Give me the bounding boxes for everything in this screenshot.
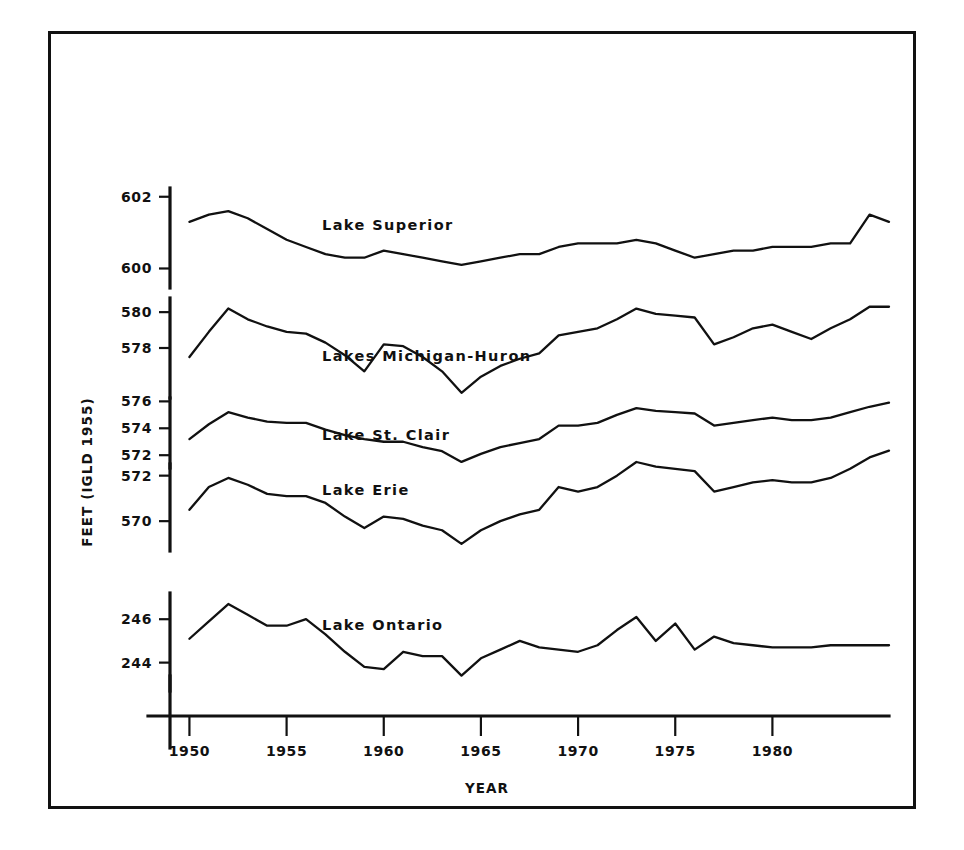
x-axis: 1950195519601965197019751980YEAR (148, 676, 889, 796)
great-lakes-water-level-chart: 600602Lake Superior578580Lakes Michigan-… (0, 0, 964, 850)
x-tick-label: 1965 (460, 743, 501, 759)
y-tick-label: 576 (121, 393, 152, 409)
y-tick-label: 602 (121, 189, 152, 205)
series-label: Lake Superior (322, 217, 454, 233)
y-tick-label: 572 (121, 447, 152, 463)
x-tick-label: 1960 (363, 743, 404, 759)
series-label: Lake Erie (322, 482, 410, 498)
panel-lake-ontario: 244246Lake Ontario (121, 593, 889, 691)
series-line-lake-superior (189, 211, 889, 265)
series-label: Lakes Michigan-Huron (322, 348, 531, 364)
y-tick-label: 580 (121, 304, 152, 320)
x-tick-label: 1980 (752, 743, 793, 759)
x-tick-label: 1955 (266, 743, 307, 759)
series-line-lake-erie (189, 451, 889, 544)
y-tick-label: 578 (121, 340, 152, 356)
panel-lakes-michigan-huron: 578580Lakes Michigan-Huron (121, 298, 889, 398)
panel-lake-st-clair: 572574576Lake St. Clair (121, 393, 889, 468)
x-axis-title: YEAR (464, 780, 509, 796)
series-line-lake-st-clair (189, 403, 889, 462)
series-line-lakes-michigan-huron (189, 307, 889, 393)
series-label: Lake St. Clair (322, 427, 450, 443)
series-label: Lake Ontario (322, 617, 443, 633)
series-line-lake-ontario (189, 604, 889, 676)
panel-lake-erie: 570572Lake Erie (121, 451, 889, 551)
y-tick-label: 572 (121, 468, 152, 484)
y-tick-label: 246 (121, 611, 152, 627)
y-axis-title: FEET (IGLD 1955) (79, 397, 95, 547)
x-tick-label: 1950 (169, 743, 210, 759)
figure-page: 600602Lake Superior578580Lakes Michigan-… (0, 0, 964, 850)
y-tick-label: 600 (121, 260, 152, 276)
y-tick-label: 574 (121, 420, 152, 436)
y-tick-label: 244 (121, 655, 152, 671)
y-tick-label: 570 (121, 513, 152, 529)
panel-lake-superior: 600602Lake Superior (121, 188, 889, 288)
x-tick-label: 1975 (655, 743, 696, 759)
x-tick-label: 1970 (557, 743, 598, 759)
